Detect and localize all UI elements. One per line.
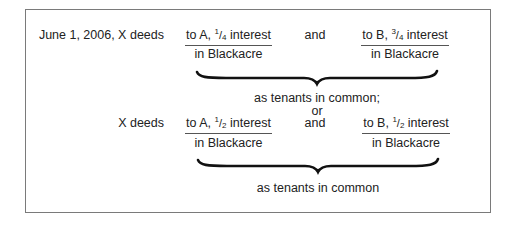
- conveyance-1-grant-a: to A, 1/4 interest: [185, 28, 272, 46]
- conveyance-1-grant-b-property: in Blackacre: [361, 47, 449, 61]
- grant-a-suffix: interest: [227, 28, 271, 42]
- curly-brace-icon: [197, 158, 439, 174]
- conveyance-2-result: as tenants in common: [218, 181, 418, 195]
- grant-b-prefix: to B,: [362, 28, 391, 42]
- conveyance-2-lead: X deeds: [30, 116, 164, 130]
- conveyance-1-connector: and: [295, 28, 335, 42]
- conveyance-1-lead: June 1, 2006, X deeds: [30, 28, 164, 42]
- conveyance-2-grant-a: to A, 1/2 interest: [185, 116, 272, 134]
- conveyance-1-result: as tenants in common;: [217, 91, 417, 105]
- grant-a-prefix: to A,: [186, 28, 215, 42]
- conveyance-2-grant-b-property: in Blackacre: [362, 136, 450, 150]
- grant-a-prefix: to A,: [186, 116, 215, 130]
- grant-b-suffix: interest: [403, 28, 447, 42]
- conveyance-2-grant-b: to B, 1/2 interest: [362, 116, 450, 134]
- conveyance-1-grant-b: to B, 3/4 interest: [361, 28, 449, 46]
- grant-b-suffix: interest: [404, 116, 448, 130]
- curly-brace-icon: [196, 70, 438, 86]
- conveyance-2-connector: and: [295, 116, 335, 130]
- grant-a-suffix: interest: [227, 116, 271, 130]
- conveyance-2-grant-a-property: in Blackacre: [185, 136, 272, 150]
- grant-b-prefix: to B,: [363, 116, 392, 130]
- conveyance-1-grant-a-property: in Blackacre: [185, 47, 272, 61]
